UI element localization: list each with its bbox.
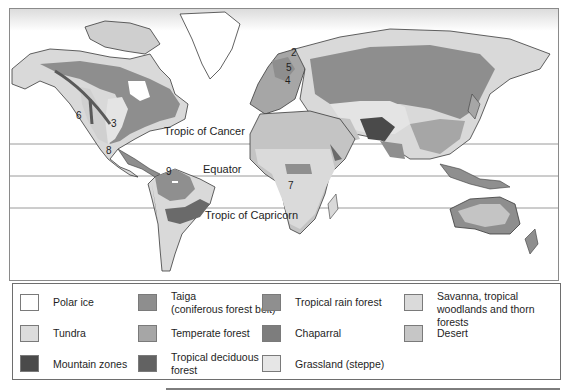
world-biome-map: Tropic of Cancer Equator Tropic of Capri… [9, 8, 559, 281]
region-number-2: 2 [291, 47, 297, 58]
legend-item-grassland: Grassland (steppe) [262, 355, 384, 372]
region-number-7: 7 [288, 180, 294, 191]
legend-label-line1: Taiga [171, 290, 275, 303]
region-number-6: 6 [76, 110, 82, 121]
polar-ice-swatch [20, 294, 39, 311]
legend-label: Desert [437, 327, 468, 340]
legend-label-line2: forest [171, 364, 259, 377]
taiga-swatch [138, 294, 157, 311]
legend-item-tropical-rain-forest: Tropical rain forest [262, 294, 382, 311]
legend-label-line2: (coniferous forest belt) [171, 303, 275, 316]
north-america [12, 21, 188, 177]
legend-item-polar-ice: Polar ice [20, 294, 94, 311]
region-number-4: 4 [285, 75, 291, 86]
central-america [118, 149, 160, 177]
savanna-swatch [404, 294, 423, 311]
tropic-of-cancer-label: Tropic of Cancer [164, 125, 245, 137]
legend-item-taiga: Taiga (coniferous forest belt) [138, 294, 275, 316]
world-map-graphic [10, 9, 558, 280]
chaparral-swatch [262, 325, 281, 342]
legend-item-tundra: Tundra [20, 325, 86, 342]
region-number-9: 9 [166, 166, 172, 177]
biome-legend: Polar ice Tundra Mountain zones Taiga (c… [12, 283, 561, 380]
legend-item-chaparral: Chaparral [262, 325, 341, 342]
legend-label: Tropical rain forest [295, 296, 382, 309]
tropic-of-capricorn-label: Tropic of Capricorn [205, 209, 298, 221]
desert-swatch [404, 325, 423, 342]
legend-label: Savanna, tropical woodlands and thorn fo… [437, 290, 560, 329]
legend-item-desert: Desert [404, 325, 468, 342]
legend-label: Grassland (steppe) [295, 358, 384, 371]
mountain-zones-swatch [20, 355, 39, 372]
region-number-3: 3 [111, 118, 117, 129]
tropical-deciduous-forest-swatch [138, 355, 157, 372]
greenland [180, 12, 240, 79]
equator-label: Equator [203, 163, 242, 175]
australia [450, 197, 520, 234]
legend-label: Chaparral [295, 327, 341, 340]
legend-label-line1: Tropical deciduous [171, 351, 259, 364]
legend-label: Tropical deciduous forest [171, 351, 259, 377]
region-number-8: 8 [106, 145, 112, 156]
grassland-swatch [262, 355, 281, 372]
legend-label: Mountain zones [53, 358, 127, 371]
new-zealand [525, 229, 538, 254]
legend-item-mountain-zones: Mountain zones [20, 355, 127, 372]
tropical-rain-forest-swatch [262, 294, 281, 311]
legend-label: Polar ice [53, 296, 94, 309]
region-number-5: 5 [286, 62, 292, 73]
legend-label: Tundra [53, 327, 86, 340]
legend-item-temperate-forest: Temperate forest [138, 325, 250, 342]
legend-label: Temperate forest [171, 327, 250, 340]
legend-item-tropical-deciduous-forest: Tropical deciduous forest [138, 355, 259, 377]
legend-item-savanna: Savanna, tropical woodlands and thorn fo… [404, 294, 560, 329]
bottom-divider [166, 388, 560, 390]
tundra-swatch [20, 325, 39, 342]
legend-label: Taiga (coniferous forest belt) [171, 290, 275, 316]
legend-label-line1: Savanna, tropical [437, 290, 560, 303]
temperate-forest-swatch [138, 325, 157, 342]
